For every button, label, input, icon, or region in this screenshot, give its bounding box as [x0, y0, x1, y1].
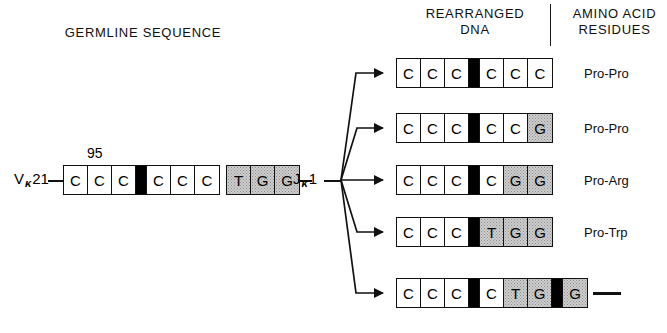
rearranged-strip-1: CCCCCC: [396, 58, 553, 88]
rearranged-2-cell: C: [445, 114, 469, 142]
rearranged-2-cell: C: [504, 114, 528, 142]
amino-residue-5: [593, 292, 621, 295]
rearranged-4-cell: C: [421, 218, 445, 246]
rearranged-1-cell: C: [445, 59, 469, 87]
rearranged-3-cell: C: [445, 166, 469, 194]
rearranged-5-cell: G: [528, 279, 552, 307]
rearranged-4-cell: C: [445, 218, 469, 246]
rearranged-4-cell: G: [504, 218, 528, 246]
rearranged-strip-2: CCCCCG: [396, 113, 553, 143]
rearranged-5-cell: C: [397, 279, 421, 307]
rearranged-strip-3: CCCCGG: [396, 165, 553, 195]
rearranged-strip-5: CCCCTGG: [396, 278, 588, 308]
rearranged-1-cell: C: [397, 59, 421, 87]
rearranged-5-cell: [469, 279, 480, 307]
diagram-canvas: GERMLINE SEQUENCE REARRANGED DNA AMINO A…: [0, 0, 667, 333]
amino-residue-3: Pro-Arg: [584, 173, 629, 188]
rearranged-3-cell: G: [528, 166, 552, 194]
rearranged-strip-4: CCCTGG: [396, 217, 553, 247]
rearranged-5-cell: C: [480, 279, 504, 307]
rearranged-1-cell: C: [421, 59, 445, 87]
rearranged-4-cell: C: [397, 218, 421, 246]
rearranged-2-cell: G: [528, 114, 552, 142]
rearranged-4-cell: T: [480, 218, 504, 246]
rearranged-1-cell: C: [504, 59, 528, 87]
rearranged-2-cell: C: [480, 114, 504, 142]
rearranged-3-cell: C: [480, 166, 504, 194]
rearranged-1-cell: C: [480, 59, 504, 87]
amino-residue-1: Pro-Pro: [584, 66, 629, 81]
rearranged-1-cell: [469, 59, 480, 87]
rearranged-5-cell: C: [421, 279, 445, 307]
rearranged-3-cell: C: [397, 166, 421, 194]
rearranged-3-cell: C: [421, 166, 445, 194]
rearranged-4-cell: G: [528, 218, 552, 246]
amino-residue-4: Pro-Trp: [584, 225, 628, 240]
rearranged-5-cell: G: [563, 279, 587, 307]
rearranged-2-cell: C: [421, 114, 445, 142]
rearranged-4-cell: [469, 218, 480, 246]
amino-residue-2: Pro-Pro: [584, 121, 629, 136]
rearranged-2-cell: [469, 114, 480, 142]
rearranged-5-cell: [552, 279, 563, 307]
rearranged-1-cell: C: [528, 59, 552, 87]
rearranged-5-cell: C: [445, 279, 469, 307]
rearranged-5-cell: T: [504, 279, 528, 307]
rearranged-3-cell: G: [504, 166, 528, 194]
rearranged-3-cell: [469, 166, 480, 194]
rearranged-2-cell: C: [397, 114, 421, 142]
